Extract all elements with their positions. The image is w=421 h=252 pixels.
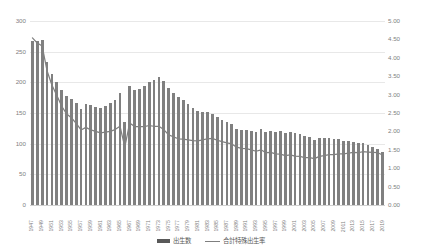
x-axis-tick-label: 2015	[360, 220, 365, 232]
x-axis: 1947194919511953195519571959196119631965…	[30, 206, 385, 232]
y-axis-tick-label: 150	[2, 110, 26, 116]
y-axis-tick-label: 0	[2, 202, 26, 208]
y2-axis-tick-label: 2.50	[388, 110, 416, 116]
x-axis-tick-label: 1995	[263, 220, 268, 232]
x-axis-tick-label: 2003	[302, 220, 307, 232]
legend-label-fertility-rate: 合計特殊出生率	[223, 238, 265, 244]
x-axis-tick-label: 2011	[341, 221, 346, 232]
y-axis-right: 0.000.501.001.502.002.503.003.504.004.50…	[388, 21, 421, 205]
legend-item-fertility-rate: 合計特殊出生率	[205, 238, 265, 244]
x-axis-tick-label: 1983	[205, 220, 210, 232]
y-axis-tick-label: 50	[2, 171, 26, 177]
legend-swatch-line-icon	[205, 241, 220, 242]
x-axis-tick-label: 1977	[175, 220, 180, 232]
y2-axis-tick-label: 1.50	[388, 147, 416, 153]
x-axis-tick-label: 2013	[350, 220, 355, 232]
fertility-rate-polyline	[32, 38, 382, 159]
x-axis-tick-label: 1987	[224, 220, 229, 232]
chart-legend: 出生数 合計特殊出生率	[0, 234, 421, 248]
x-axis-tick-label: 1975	[166, 220, 171, 232]
y-axis-tick-label: 300	[2, 18, 26, 24]
y-axis-left: 050100150200250300	[0, 21, 26, 205]
y-axis-tick-label: 100	[2, 141, 26, 147]
x-axis-tick-label: 1999	[282, 220, 287, 232]
line-series-fertility-rate	[30, 21, 385, 205]
x-axis-tick-label: 1953	[59, 220, 64, 232]
legend-item-births: 出生数	[157, 238, 191, 244]
legend-label-births: 出生数	[173, 238, 191, 244]
chart-container: 050100150200250300 0.000.501.001.502.002…	[0, 0, 421, 252]
x-axis-tick-label: 1963	[107, 220, 112, 232]
x-axis-tick-label: 2007	[321, 220, 326, 232]
x-axis-tick-label: 1967	[127, 220, 132, 232]
x-axis-tick-label: 1981	[195, 220, 200, 232]
legend-swatch-bar-icon	[157, 239, 170, 243]
x-axis-tick-label: 2019	[380, 220, 385, 232]
x-axis-tick-label: 1991	[243, 220, 248, 232]
x-axis-tick-label: 1989	[234, 220, 239, 232]
x-axis-tick-label: 1985	[214, 220, 219, 232]
y2-axis-tick-label: 3.50	[388, 73, 416, 79]
x-axis-tick-label: 1955	[68, 220, 73, 232]
x-axis-tick-label: 1979	[185, 220, 190, 232]
x-axis-tick-label: 1993	[253, 220, 258, 232]
x-axis-tick-label: 1951	[49, 220, 54, 232]
x-axis-tick-label: 1947	[29, 220, 34, 232]
y2-axis-tick-label: 2.00	[388, 128, 416, 134]
x-axis-tick-label: 1961	[98, 220, 103, 232]
y2-axis-tick-label: 4.50	[388, 36, 416, 42]
y2-axis-tick-label: 0.00	[388, 202, 416, 208]
y-axis-tick-label: 250	[2, 49, 26, 55]
x-axis-tick-label: 2001	[292, 220, 297, 232]
x-axis-tick-label: 2005	[311, 220, 316, 232]
plot-area	[30, 21, 385, 205]
x-axis-tick-label: 1973	[156, 220, 161, 232]
y2-axis-tick-label: 3.00	[388, 91, 416, 97]
y2-axis-tick-label: 5.00	[388, 18, 416, 24]
y2-axis-tick-label: 1.00	[388, 165, 416, 171]
x-axis-tick-label: 1959	[88, 220, 93, 232]
x-axis-tick-label: 2009	[331, 220, 336, 232]
x-axis-tick-label: 1957	[78, 220, 83, 232]
x-axis-tick-label: 1949	[39, 220, 44, 232]
x-axis-tick-label: 1971	[146, 220, 151, 232]
x-axis-tick-label: 1969	[136, 220, 141, 232]
y2-axis-tick-label: 0.50	[388, 183, 416, 189]
y-axis-tick-label: 200	[2, 79, 26, 85]
y2-axis-tick-label: 4.00	[388, 55, 416, 61]
x-axis-tick-label: 2017	[370, 220, 375, 232]
x-axis-tick-label: 1965	[117, 220, 122, 232]
x-axis-tick-label: 1997	[273, 220, 278, 232]
